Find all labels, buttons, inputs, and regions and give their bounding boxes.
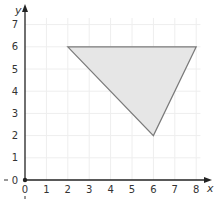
x-axis-label: x <box>206 182 214 195</box>
x-tick-label: 8 <box>193 184 199 195</box>
y-tick-label: 1 <box>12 152 18 163</box>
x-tick-label: 4 <box>107 184 113 195</box>
x-tick-label: 7 <box>172 184 178 195</box>
y-axis-arrow-icon <box>22 4 28 12</box>
x-tick-label: 5 <box>129 184 135 195</box>
y-tick-label: 2 <box>12 130 18 141</box>
y-tick-label: 0 <box>12 175 18 186</box>
x-tick-label: 2 <box>65 184 71 195</box>
x-tick-label: 3 <box>86 184 92 195</box>
coordinate-plot: 01234567801234567 x y <box>0 0 218 200</box>
y-tick-label: 4 <box>12 86 18 97</box>
grid-lines <box>25 18 200 180</box>
tick-labels: 01234567801234567 <box>4 19 199 199</box>
x-tick-label: 0 <box>22 184 28 195</box>
y-tick-label: 5 <box>12 64 18 75</box>
y-tick-label: 6 <box>12 41 18 52</box>
y-tick-label: 3 <box>12 108 18 119</box>
y-axis-label: y <box>14 4 22 17</box>
x-tick-label: 6 <box>150 184 156 195</box>
origin-dot <box>23 178 27 182</box>
y-tick-label: 7 <box>12 19 18 30</box>
x-tick-label: 1 <box>43 184 49 195</box>
